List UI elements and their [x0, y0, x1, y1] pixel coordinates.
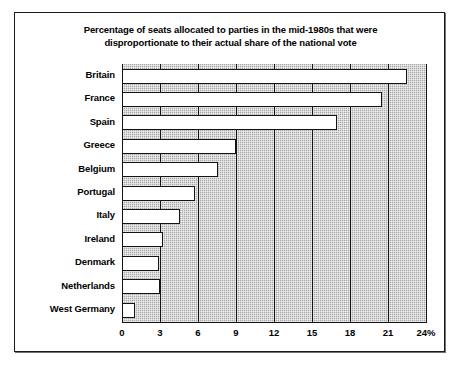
- bar-france: [122, 92, 382, 107]
- x-tick-label-15: 15: [307, 327, 318, 338]
- bar-row: Spain: [122, 112, 426, 135]
- bar-row: Belgium: [122, 159, 426, 182]
- chart-title: Percentage of seats allocated to parties…: [25, 23, 436, 49]
- chart-title-line-1: Percentage of seats allocated to parties…: [25, 23, 436, 36]
- category-label-belgium: Belgium: [78, 163, 115, 174]
- x-tick-label-3: 3: [157, 327, 162, 338]
- bar-row: Ireland: [122, 229, 426, 252]
- plot-area: BritainFranceSpainGreeceBelgiumPortugalI…: [122, 64, 426, 323]
- bar-britain: [122, 69, 407, 84]
- bar-row: Greece: [122, 135, 426, 158]
- category-label-italy: Italy: [96, 209, 115, 220]
- x-tick-label-24: 24%: [416, 327, 435, 338]
- bar-row: Denmark: [122, 252, 426, 275]
- bar-row: Italy: [122, 205, 426, 228]
- bar-row: West Germany: [122, 299, 426, 322]
- bar-row: Portugal: [122, 182, 426, 205]
- category-label-greece: Greece: [83, 139, 115, 150]
- category-label-france: France: [84, 92, 115, 103]
- gridline-24: [426, 64, 427, 323]
- category-label-denmark: Denmark: [75, 256, 115, 267]
- bar-belgium: [122, 162, 218, 177]
- x-tick-label-21: 21: [383, 327, 394, 338]
- bar-west-germany: [122, 303, 135, 318]
- bar-spain: [122, 115, 337, 130]
- x-tick-label-9: 9: [233, 327, 238, 338]
- bar-ireland: [122, 232, 163, 247]
- category-label-west-germany: West Germany: [50, 303, 115, 314]
- bar-portugal: [122, 186, 195, 201]
- chart-figure: Percentage of seats allocated to parties…: [14, 12, 445, 352]
- bar-row: Netherlands: [122, 276, 426, 299]
- bar-denmark: [122, 256, 159, 271]
- x-tick-label-18: 18: [345, 327, 356, 338]
- category-label-portugal: Portugal: [77, 186, 115, 197]
- bar-row: Britain: [122, 65, 426, 88]
- bar-italy: [122, 209, 180, 224]
- bar-rows: BritainFranceSpainGreeceBelgiumPortugalI…: [122, 64, 426, 323]
- bar-row: France: [122, 88, 426, 111]
- x-tick-label-6: 6: [195, 327, 200, 338]
- chart-title-line-2: disproportionate to their actual share o…: [25, 36, 436, 49]
- bar-netherlands: [122, 279, 160, 294]
- category-label-ireland: Ireland: [85, 233, 115, 244]
- category-label-netherlands: Netherlands: [61, 280, 115, 291]
- x-axis-tick-labels: 03691215182124%: [122, 327, 426, 343]
- category-label-spain: Spain: [90, 116, 115, 127]
- category-label-britain: Britain: [86, 69, 115, 80]
- bar-greece: [122, 139, 236, 154]
- x-tick-label-12: 12: [269, 327, 280, 338]
- x-tick-label-0: 0: [119, 327, 124, 338]
